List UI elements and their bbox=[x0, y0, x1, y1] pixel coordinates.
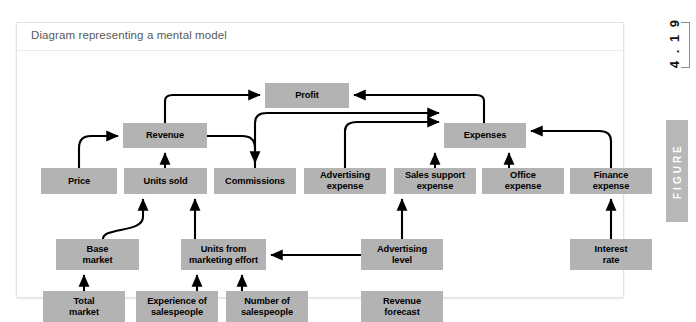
node-commissions[interactable]: Commissions bbox=[214, 168, 296, 194]
node-units-sold[interactable]: Units sold bbox=[124, 168, 207, 194]
node-label: Sales supportexpense bbox=[403, 170, 467, 192]
node-revenue-forecast[interactable]: Revenueforecast bbox=[361, 291, 443, 322]
node-label: Totalmarket bbox=[67, 296, 101, 318]
node-label: Number ofsalespeople bbox=[239, 296, 295, 318]
node-label: Financeexpense bbox=[591, 170, 632, 192]
figure-card: Diagram representing a mental model bbox=[16, 22, 624, 298]
figure-number-bracket bbox=[681, 22, 690, 68]
figure-caption: Diagram representing a mental model bbox=[31, 29, 227, 41]
node-total-market[interactable]: Totalmarket bbox=[43, 291, 125, 322]
figure-rail: FIGURE bbox=[666, 120, 688, 222]
node-label: Expenses bbox=[462, 130, 509, 141]
node-units-from-marketing[interactable]: Units frommarketing effort bbox=[181, 239, 266, 270]
node-sales-support-expense[interactable]: Sales supportexpense bbox=[394, 168, 476, 194]
node-label: Basemarket bbox=[81, 244, 115, 266]
node-label: Units frommarketing effort bbox=[187, 244, 260, 266]
node-finance-expense[interactable]: Financeexpense bbox=[570, 168, 652, 194]
node-label: Commissions bbox=[223, 176, 287, 187]
node-profit[interactable]: Profit bbox=[265, 83, 349, 108]
node-advertising-level[interactable]: Advertisinglevel bbox=[361, 239, 443, 270]
figure-number: 4 . 1 9 bbox=[667, 18, 682, 68]
edge-revenue-to-profit bbox=[165, 95, 260, 123]
node-interest-rate[interactable]: Interestrate bbox=[570, 239, 652, 270]
edge-advertising-expense-to-expenses bbox=[345, 122, 439, 168]
edge-base-market-to-units-sold bbox=[103, 199, 143, 239]
node-office-expense[interactable]: Officeexpense bbox=[482, 168, 564, 194]
node-label: Profit bbox=[293, 90, 321, 101]
edge-price-to-revenue bbox=[79, 136, 118, 168]
edge-revenue-to-commissions bbox=[207, 136, 255, 163]
node-advertising-expense[interactable]: Advertisingexpense bbox=[304, 168, 386, 194]
node-label: Revenue bbox=[144, 130, 186, 141]
figure-rail-label: FIGURE bbox=[666, 120, 688, 222]
node-number-salespeople[interactable]: Number ofsalespeople bbox=[226, 291, 308, 322]
node-label: Price bbox=[66, 176, 92, 187]
diagram-canvas: ProfitRevenueExpensesPriceUnits soldComm… bbox=[17, 51, 623, 297]
node-label: Officeexpense bbox=[503, 170, 544, 192]
node-experience-salespeople[interactable]: Experience ofsalespeople bbox=[136, 291, 218, 322]
node-label: Revenueforecast bbox=[381, 296, 423, 318]
node-revenue[interactable]: Revenue bbox=[123, 123, 207, 148]
node-label: Advertisinglevel bbox=[375, 244, 429, 266]
node-label: Advertisingexpense bbox=[318, 170, 372, 192]
node-label: Interestrate bbox=[593, 244, 630, 266]
node-label: Units sold bbox=[142, 176, 190, 187]
edge-finance-expense-to-expenses bbox=[531, 131, 611, 168]
node-price[interactable]: Price bbox=[41, 168, 117, 194]
figure-card-header: Diagram representing a mental model bbox=[17, 23, 623, 51]
node-base-market[interactable]: Basemarket bbox=[56, 239, 139, 270]
edge-expenses-to-profit bbox=[354, 95, 484, 123]
node-label: Experience ofsalespeople bbox=[145, 296, 209, 318]
node-expenses[interactable]: Expenses bbox=[444, 123, 526, 148]
